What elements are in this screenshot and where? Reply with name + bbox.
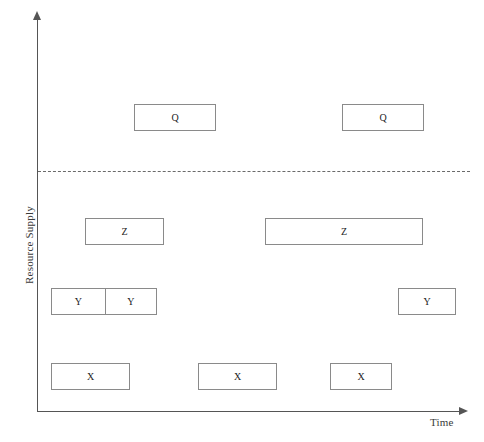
task-block-z[interactable]: Z xyxy=(85,218,164,245)
x-axis-arrow-icon xyxy=(459,407,468,415)
task-block-q[interactable]: Q xyxy=(134,104,216,131)
capacity-threshold-line xyxy=(38,171,470,172)
task-block-y[interactable]: Y xyxy=(52,289,105,314)
task-block-group-y: YY xyxy=(51,288,157,315)
task-block-y[interactable]: Y xyxy=(398,288,456,315)
y-axis-line xyxy=(37,18,38,412)
task-block-x[interactable]: X xyxy=(51,363,130,390)
x-axis-line xyxy=(38,411,463,412)
task-block-x[interactable]: X xyxy=(198,363,277,390)
x-axis-label: Time xyxy=(430,416,454,428)
resource-supply-timeline-chart: Resource Supply Time QQZZYXXXYY xyxy=(0,0,484,442)
task-block-y[interactable]: Y xyxy=(105,289,156,314)
y-axis-label: Resource Supply xyxy=(23,175,35,315)
task-block-z[interactable]: Z xyxy=(265,218,423,245)
task-block-x[interactable]: X xyxy=(330,363,392,390)
y-axis-arrow-icon xyxy=(33,11,41,20)
task-block-q[interactable]: Q xyxy=(342,104,424,131)
